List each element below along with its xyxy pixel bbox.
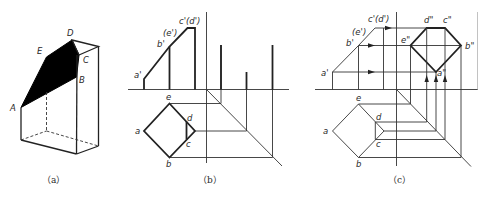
label-cd-prime-c: c'(d') xyxy=(368,14,389,24)
label-b: b xyxy=(166,159,171,169)
label-a-dprime: a" xyxy=(437,68,446,78)
label-C: C xyxy=(83,55,89,65)
arrow-right-icon xyxy=(385,26,392,30)
panel-a-isometric: A E D C B （a） xyxy=(9,28,99,185)
hidden-bottom-back xyxy=(47,131,99,146)
right-front-edge xyxy=(77,55,78,154)
label-e-dprime: e" xyxy=(401,35,410,45)
label-b-prime: b' xyxy=(157,39,165,49)
caption-a: （a） xyxy=(42,175,65,185)
label-e-prime-c: (e') xyxy=(352,27,366,37)
label-d-c: d xyxy=(376,112,382,122)
label-A: A xyxy=(9,103,16,113)
label-d: d xyxy=(187,113,193,123)
side-view-section xyxy=(411,28,462,72)
label-D: D xyxy=(67,28,74,38)
label-c: c xyxy=(186,139,191,149)
label-B: B xyxy=(79,75,85,85)
45-degree-line-c xyxy=(397,90,472,167)
panel-c-three-views: c'(d') (e') b' a' d" c" e" b" a" e a b d… xyxy=(315,12,478,185)
label-cd-prime: c'(d') xyxy=(179,16,200,26)
label-E: E xyxy=(37,46,43,56)
arrow-right-icon xyxy=(368,43,375,47)
label-e-c: e xyxy=(356,93,361,103)
bottom-front-edge xyxy=(21,140,77,154)
hidden-bottom-left xyxy=(21,131,47,140)
label-b-c: b xyxy=(356,159,361,169)
caption-c: （c） xyxy=(388,175,411,185)
label-a-c: a xyxy=(323,126,328,136)
arrow-up-icon xyxy=(425,75,429,82)
label-b-prime-c: b' xyxy=(346,38,354,48)
panel-b-two-views: c'(d') (e') b' a' e a b d c （b） xyxy=(128,12,289,185)
label-a: a xyxy=(135,126,140,136)
projection-diagram: A E D C B （a） c'(d') (e') b' a' e xyxy=(0,0,487,202)
label-b-dprime: b" xyxy=(465,41,474,51)
label-c-c: c xyxy=(376,139,381,149)
section-face-abcde xyxy=(21,40,79,108)
caption-b: （b） xyxy=(198,175,222,185)
front-view-outline-c xyxy=(333,28,384,90)
label-e: e xyxy=(166,92,171,102)
label-e-prime: (e') xyxy=(163,28,177,38)
label-d-dprime: d" xyxy=(424,15,433,25)
label-c-dprime: c" xyxy=(443,15,452,25)
45-degree-line xyxy=(207,90,283,167)
label-a-prime-c: a' xyxy=(321,68,329,78)
label-a-prime: a' xyxy=(134,70,142,80)
arrow-right-icon xyxy=(368,70,375,74)
bottom-right-edge xyxy=(77,146,99,154)
